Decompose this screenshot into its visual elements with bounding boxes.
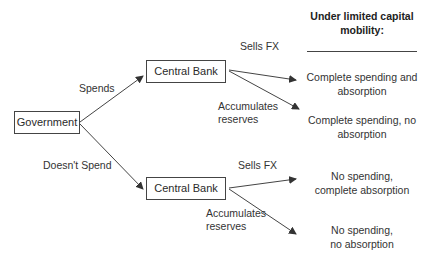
central-bank-bottom-node: Central Bank	[146, 177, 226, 200]
accumulates-bottom-label: Accumulates reserves	[206, 207, 266, 233]
column-header: Under limited capital mobility:	[297, 9, 427, 37]
column-header-line-2: mobility:	[297, 23, 427, 37]
accumulates-bottom-line-2: reserves	[206, 220, 266, 233]
accumulates-top-label: Accumulates reserves	[218, 100, 278, 126]
doesnt-spend-label: Doesn't Spend	[43, 159, 112, 172]
column-header-line-1: Under limited capital	[297, 9, 427, 23]
outcome-2: Complete spending, no absorption	[297, 113, 427, 141]
accumulates-top-line-1: Accumulates	[218, 100, 278, 113]
outcome-4-line-1: No spending,	[297, 223, 427, 237]
spends-label: Spends	[79, 82, 115, 95]
sells-fx-bottom-label: Sells FX	[238, 159, 277, 172]
central-bank-bottom-label: Central Bank	[154, 182, 218, 194]
accumulates-top-line-2: reserves	[218, 113, 278, 126]
outcome-4-line-2: no absorption	[297, 237, 427, 251]
central-bank-top-node: Central Bank	[146, 60, 226, 83]
outcome-2-line-1: Complete spending, no	[297, 113, 427, 127]
outcome-2-line-2: absorption	[297, 127, 427, 141]
outcome-1-line-2: absorption	[297, 84, 427, 98]
outcome-3: No spending, complete absorption	[297, 169, 427, 197]
outcome-3-line-1: No spending,	[297, 169, 427, 183]
arrow-sells-fx-bottom	[229, 179, 296, 188]
outcome-1-line-1: Complete spending and	[297, 70, 427, 84]
outcome-4: No spending, no absorption	[297, 223, 427, 251]
central-bank-top-label: Central Bank	[154, 65, 218, 77]
arrow-sells-fx-top	[229, 70, 296, 80]
accumulates-bottom-line-1: Accumulates	[206, 207, 266, 220]
outcome-3-line-2: complete absorption	[297, 183, 427, 197]
government-node: Government	[14, 111, 80, 134]
outcome-1: Complete spending and absorption	[297, 70, 427, 98]
sells-fx-top-label: Sells FX	[240, 40, 279, 53]
header-underline	[307, 51, 417, 52]
arrow-doesnt-spend	[80, 124, 143, 189]
government-label: Government	[17, 116, 78, 128]
